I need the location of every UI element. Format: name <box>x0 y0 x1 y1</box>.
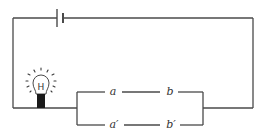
circuit-diagram: H a b <box>0 0 265 136</box>
top-branch: a b <box>77 85 203 98</box>
label-b: b <box>166 85 173 98</box>
label-a-prime: a′ <box>109 118 119 131</box>
light-bulb-icon: H <box>26 68 56 108</box>
bottom-branch: a′ b′ <box>77 118 203 131</box>
filament-label: H <box>38 82 45 92</box>
label-a: a <box>110 85 117 98</box>
label-b-prime: b′ <box>166 118 176 131</box>
bulb-base <box>37 94 45 108</box>
battery-icon <box>57 9 63 27</box>
parallel-section: a b a′ b′ <box>77 85 203 131</box>
main-loop-wires <box>13 18 253 108</box>
